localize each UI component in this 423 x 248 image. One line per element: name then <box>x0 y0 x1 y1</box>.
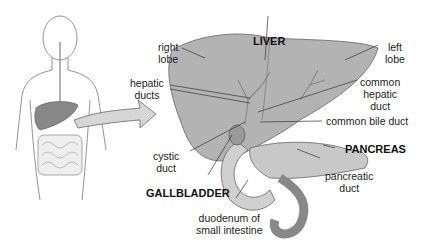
cystic-duct-label: cystic duct <box>153 150 179 174</box>
common-hepatic-text-3: duct <box>360 100 400 112</box>
liver-label: LIVER <box>253 35 285 47</box>
cystic-duct-text-2: duct <box>153 162 179 174</box>
right-lobe-text-2: lobe <box>158 53 178 65</box>
left-lobe-text-2: lobe <box>385 53 405 65</box>
left-lobe-text-1: left <box>385 41 405 53</box>
hepatic-ducts-text-2: ducts <box>130 89 164 101</box>
common-hepatic-text-1: common <box>360 76 400 88</box>
hepatic-ducts-text-1: hepatic <box>130 77 164 89</box>
hepatic-ducts-label: hepatic ducts <box>130 77 164 101</box>
pancreas-label: PANCREAS <box>345 143 406 155</box>
liver-organ <box>169 34 378 161</box>
figure-intestines-icon <box>38 135 82 175</box>
duodenum-label: duodenum of small intestine <box>196 212 263 236</box>
left-lobe-label: left lobe <box>385 41 405 65</box>
common-hepatic-text-2: hepatic <box>360 88 400 100</box>
gallbladder-label: GALLBLADDER <box>146 187 230 199</box>
gallbladder-organ <box>229 125 245 145</box>
right-lobe-label: right lobe <box>158 41 178 65</box>
right-lobe-text-1: right <box>158 41 178 53</box>
figure-liver-icon <box>35 102 78 130</box>
zoom-arrow-icon <box>74 100 156 128</box>
duodenum-text-1: duodenum of <box>196 212 263 224</box>
diagram-canvas: right lobe LIVER left lobe hepatic ducts… <box>0 0 423 248</box>
pancreatic-duct-label: pancreatic duct <box>325 170 373 194</box>
common-bile-duct-label: common bile duct <box>326 115 408 127</box>
common-hepatic-duct-label: common hepatic duct <box>360 76 400 112</box>
pancreatic-duct-text-2: duct <box>325 182 373 194</box>
cystic-duct-text-1: cystic <box>153 150 179 162</box>
pancreatic-duct-text-1: pancreatic <box>325 170 373 182</box>
duodenum-text-2: small intestine <box>196 224 263 236</box>
